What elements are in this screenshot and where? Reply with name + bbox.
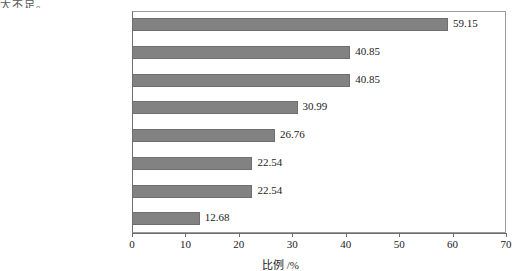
bar-value-label: 12.68	[205, 210, 230, 225]
x-tick-label: 60	[447, 238, 458, 250]
bar	[132, 212, 200, 225]
clipped-header-text: 大不足。	[0, 0, 120, 8]
bar-row: 配套软硬件不成熟22.54	[132, 150, 506, 178]
x-tick	[506, 233, 507, 237]
bar-value-label: 40.85	[355, 72, 380, 87]
bar-row: 相关人才的缺失26.76	[132, 122, 506, 150]
x-tick-label: 20	[233, 238, 244, 250]
bar	[132, 46, 350, 59]
x-tick	[185, 233, 186, 237]
bar-chart: 对 “智慧工地” 价值认识不足59.15缺乏标准规范体系40.85投入不足40.…	[0, 8, 527, 248]
x-tick	[346, 233, 347, 237]
bar-row: 对 “智慧工地” 价值认识不足59.15	[132, 11, 506, 39]
bar-rows: 对 “智慧工地” 价值认识不足59.15缺乏标准规范体系40.85投入不足40.…	[132, 11, 506, 233]
bar-row: 缺乏标准规范体系40.85	[132, 39, 506, 67]
x-axis: 010203040506070	[132, 233, 506, 234]
bar	[132, 129, 275, 142]
bar	[132, 74, 350, 87]
bar	[132, 157, 252, 170]
bar-row: 工人不配合 / 难上手12.68	[132, 205, 506, 233]
x-axis-title-label: 比例 /%	[228, 256, 299, 271]
bar	[132, 185, 252, 198]
bar-row: 投入不足40.85	[132, 67, 506, 95]
x-tick-label: 70	[501, 238, 512, 250]
bar-value-label: 22.54	[257, 183, 282, 198]
x-tick	[292, 233, 293, 237]
bar-row: 行业主管部门的引导不足30.99	[132, 94, 506, 122]
x-tick	[399, 233, 400, 237]
x-tick-label: 10	[180, 238, 191, 250]
bar	[132, 18, 448, 31]
bar-value-label: 30.99	[303, 99, 328, 114]
bar-row: 购买与维护成本高22.54	[132, 178, 506, 206]
x-tick-label: 50	[394, 238, 405, 250]
bar-value-label: 26.76	[280, 127, 305, 142]
x-tick-label: 0	[129, 238, 135, 250]
x-tick-label: 30	[287, 238, 298, 250]
bar-value-label: 59.15	[453, 16, 478, 31]
x-tick-label: 40	[340, 238, 351, 250]
x-axis-title: 比例 /%	[0, 256, 527, 271]
x-tick	[132, 233, 133, 237]
bar	[132, 101, 298, 114]
chart-page: 大不足。 对 “智慧工地” 价值认识不足59.15缺乏标准规范体系40.85投入…	[0, 0, 527, 271]
x-tick	[239, 233, 240, 237]
bar-value-label: 22.54	[257, 155, 282, 170]
x-tick	[453, 233, 454, 237]
bar-value-label: 40.85	[355, 44, 380, 59]
